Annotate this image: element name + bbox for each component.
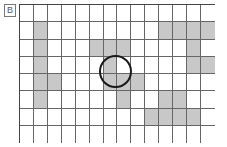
grid-cell (201, 40, 215, 57)
grid-cell-shaded (34, 74, 48, 91)
grid-cell (117, 109, 131, 126)
grid-cell-shaded (145, 109, 159, 126)
grid-cell (48, 57, 62, 74)
grid-cell (131, 91, 145, 108)
grid-cell (201, 74, 215, 91)
grid-cell (131, 40, 145, 57)
grid-cell (20, 126, 34, 143)
grid-cell (90, 126, 104, 143)
grid-cell-shaded (187, 40, 201, 57)
grid-cell (76, 57, 90, 74)
grid-cell (20, 22, 34, 39)
grid-cell (20, 109, 34, 126)
highlight-circle (99, 55, 132, 88)
grid-cell (117, 126, 131, 143)
grid-cell (187, 126, 201, 143)
grid-cell (76, 126, 90, 143)
grid-cell (90, 109, 104, 126)
figure-label: B (4, 4, 16, 17)
grid-cell (187, 91, 201, 108)
grid-cell (90, 91, 104, 108)
grid-cell (159, 40, 173, 57)
grid-cell (62, 126, 76, 143)
grid-cell-shaded (187, 22, 201, 39)
grid-cell (48, 22, 62, 39)
grid-cell (117, 22, 131, 39)
grid-cell (90, 5, 104, 22)
grid-cell (104, 22, 118, 39)
grid-cell-shaded (173, 109, 187, 126)
grid-cell (187, 74, 201, 91)
grid-cell (159, 74, 173, 91)
grid-cell (76, 74, 90, 91)
grid-cell (76, 40, 90, 57)
grid-cell-shaded (159, 109, 173, 126)
grid-cell (20, 5, 34, 22)
grid-cell (34, 126, 48, 143)
grid-cell-shaded (117, 91, 131, 108)
grid-cell (145, 91, 159, 108)
grid-cell (62, 22, 76, 39)
grid-cell (62, 40, 76, 57)
grid-cell (34, 5, 48, 22)
grid-cell (145, 57, 159, 74)
grid-cell (104, 5, 118, 22)
grid-cell (145, 22, 159, 39)
grid-cell (76, 22, 90, 39)
grid-cell (48, 91, 62, 108)
grid-cell-shaded (173, 91, 187, 108)
grid-cell (62, 74, 76, 91)
grid-cell-shaded (34, 91, 48, 108)
grid-cell-shaded (131, 74, 145, 91)
grid-cell (145, 5, 159, 22)
grid-cell (201, 126, 215, 143)
grid-cell (76, 91, 90, 108)
grid-cell (201, 109, 215, 126)
grid-cell (104, 91, 118, 108)
grid-cell-shaded (187, 57, 201, 74)
grid-cell (131, 22, 145, 39)
grid-cell (201, 91, 215, 108)
grid-cell (173, 57, 187, 74)
grid-cell (145, 74, 159, 91)
grid-cell (48, 126, 62, 143)
grid-cell (131, 109, 145, 126)
grid-cell (48, 5, 62, 22)
grid-cell (62, 109, 76, 126)
grid-cell (131, 126, 145, 143)
grid-cell-shaded (187, 109, 201, 126)
grid-cell (62, 91, 76, 108)
grid-cell-shaded (90, 40, 104, 57)
grid-cell (173, 40, 187, 57)
grid-cell (90, 22, 104, 39)
grid-cell (173, 5, 187, 22)
grid-cell (159, 126, 173, 143)
grid-cell-shaded (34, 57, 48, 74)
grid-cell (145, 126, 159, 143)
grid-cell (62, 57, 76, 74)
grid-cell-shaded (34, 22, 48, 39)
grid-cell-shaded (159, 22, 173, 39)
grid-cell (117, 5, 131, 22)
grid-cell (62, 5, 76, 22)
grid-cell (76, 5, 90, 22)
grid-cell (34, 109, 48, 126)
grid-cell (187, 5, 201, 22)
grid-cell (20, 57, 34, 74)
grid-cell (159, 57, 173, 74)
grid-cell-shaded (173, 22, 187, 39)
grid-cell-shaded (201, 22, 215, 39)
grid-cell (20, 40, 34, 57)
grid-cell (159, 5, 173, 22)
grid-cell (20, 74, 34, 91)
grid-cell (131, 57, 145, 74)
grid-cell (131, 5, 145, 22)
grid-cell (173, 74, 187, 91)
grid-cell-shaded (117, 40, 131, 57)
grid-cell (201, 5, 215, 22)
grid-cell (173, 126, 187, 143)
grid-cell-shaded (159, 91, 173, 108)
grid-cell (20, 91, 34, 108)
grid-cell-shaded (48, 74, 62, 91)
grid-cell (48, 40, 62, 57)
